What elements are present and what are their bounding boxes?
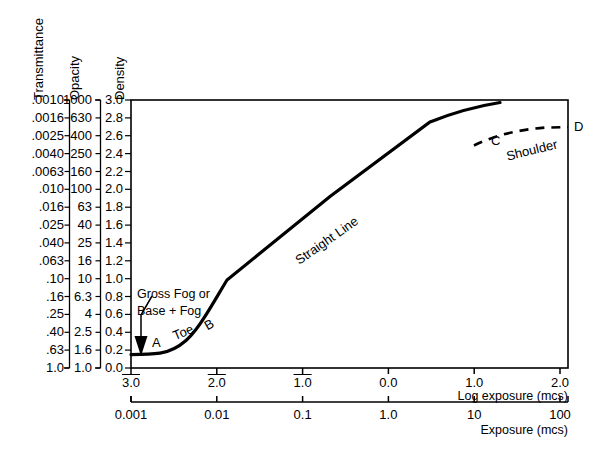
density-tick: 1.6 bbox=[96, 218, 123, 231]
opacity-tick: 4 bbox=[36, 307, 92, 320]
log-exposure-tick: 2.0 bbox=[208, 376, 226, 389]
transmittance-axis-title: Transmittance bbox=[32, 18, 45, 100]
exposure-tick: 1.0 bbox=[379, 408, 397, 421]
density-tick: 0.0 bbox=[96, 361, 123, 374]
density-tick: 2.8 bbox=[96, 111, 123, 124]
log-exposure-axis-title: Log exposure (mcs) bbox=[458, 390, 568, 403]
density-tick: 0.8 bbox=[96, 290, 123, 303]
density-tick: 1.2 bbox=[96, 254, 123, 267]
exposure-axis-title: Exposure (mcs) bbox=[480, 424, 568, 437]
opacity-tick: 400 bbox=[36, 129, 92, 142]
exposure-tick: 0.01 bbox=[204, 408, 229, 421]
log-exposure-tick: 1.0 bbox=[465, 376, 483, 389]
exposure-tick: 10 bbox=[467, 408, 481, 421]
opacity-tick: 100 bbox=[36, 182, 92, 195]
density-tick: 1.8 bbox=[96, 200, 123, 213]
density-tick: 2.4 bbox=[96, 147, 123, 160]
characteristic-curve-figure: Transmittance .0010 .0016 .0025 .0040 .0… bbox=[0, 0, 599, 451]
log-exposure-tick: 3.0 bbox=[122, 376, 140, 389]
density-tick: 1.4 bbox=[96, 236, 123, 249]
log-exposure-tick: 0.0 bbox=[379, 376, 397, 389]
density-tick: 3.0 bbox=[96, 93, 123, 106]
opacity-tick: 630 bbox=[36, 111, 92, 124]
exposure-tick: 0.001 bbox=[115, 408, 148, 421]
opacity-tick: 63 bbox=[36, 200, 92, 213]
opacity-tick: 40 bbox=[36, 218, 92, 231]
point-label-d: D bbox=[574, 120, 583, 133]
density-tick: 2.6 bbox=[96, 129, 123, 142]
density-tick: 1.0 bbox=[96, 272, 123, 285]
opacity-tick: 250 bbox=[36, 147, 92, 160]
point-label-c: C bbox=[491, 134, 500, 147]
log-exposure-tick: 2.0 bbox=[551, 376, 569, 389]
point-label-a: A bbox=[152, 336, 161, 349]
density-tick: 2.0 bbox=[96, 182, 123, 195]
opacity-tick: 25 bbox=[36, 236, 92, 249]
annotation-gross-fog-line2: Base + Fog bbox=[137, 305, 201, 318]
density-tick: 0.4 bbox=[96, 325, 123, 338]
log-exposure-tick: 1.0 bbox=[294, 376, 312, 389]
annotation-gross-fog-line1: Gross Fog or bbox=[137, 288, 210, 301]
density-tick: 0.2 bbox=[96, 343, 123, 356]
opacity-tick: 1.6 bbox=[36, 343, 92, 356]
density-ticks bbox=[125, 100, 131, 368]
opacity-tick: 10 bbox=[36, 272, 92, 285]
opacity-tick: 1.0 bbox=[36, 361, 92, 374]
opacity-tick: 1000 bbox=[36, 93, 92, 106]
exposure-tick: 100 bbox=[549, 408, 571, 421]
opacity-tick: 160 bbox=[36, 165, 92, 178]
opacity-tick: 16 bbox=[36, 254, 92, 267]
density-tick: 2.2 bbox=[96, 165, 123, 178]
opacity-tick: 6.3 bbox=[36, 290, 92, 303]
log-exposure-ticks bbox=[131, 368, 560, 374]
opacity-tick: 2.5 bbox=[36, 325, 92, 338]
density-tick: 0.6 bbox=[96, 307, 123, 320]
exposure-tick: 0.1 bbox=[294, 408, 312, 421]
